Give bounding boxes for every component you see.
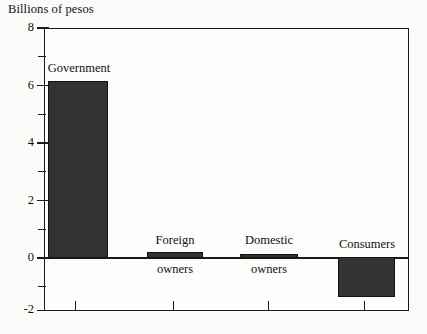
bar-label-domestic-owners-line2: owners: [234, 262, 304, 277]
y-tick-1: [38, 229, 46, 230]
bar-label-consumers: Consumers: [330, 237, 404, 252]
x-tick-3: [268, 301, 269, 310]
y-tick-3: [38, 171, 46, 172]
y-tick-neg1: [38, 286, 46, 287]
bar-label-foreign-owners-line2: owners: [142, 262, 208, 277]
bar-label-foreign-owners-line1: Foreign: [142, 233, 208, 248]
y-tick-label-8: 8: [14, 21, 34, 34]
y-tick-label-6: 6: [14, 79, 34, 92]
bar-label-domestic-owners-line1: Domestic: [234, 233, 304, 248]
axis-title: Billions of pesos: [8, 2, 94, 17]
y-tick-8: [37, 27, 49, 28]
y-tick-5: [38, 114, 46, 115]
bar-chart: Billions of pesos 8 6 4 2 0 -2 Governmen…: [0, 0, 427, 334]
bar-label-government: Government: [43, 61, 115, 76]
y-tick-7: [38, 56, 46, 57]
bar-label-domestic-owners: Domestic owners: [234, 218, 304, 291]
y-tick-label-2: 2: [14, 194, 34, 207]
bar-consumers: [338, 257, 395, 297]
y-tick-label-0: 0: [14, 251, 34, 264]
y-tick-neg2: [37, 310, 49, 311]
x-tick-2: [173, 301, 174, 310]
bar-government: [48, 81, 108, 258]
y-tick-label-neg2: -2: [10, 303, 34, 316]
x-tick-4: [364, 301, 365, 310]
x-tick-1: [75, 301, 76, 310]
bar-label-foreign-owners: Foreign owners: [142, 218, 208, 291]
y-tick-label-4: 4: [14, 136, 34, 149]
